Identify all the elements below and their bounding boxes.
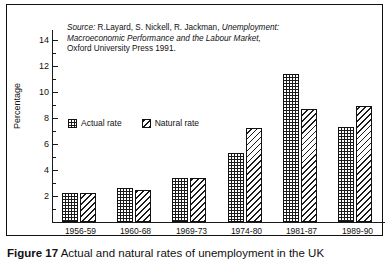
bar-natural-1960-68 — [135, 190, 151, 222]
bar-natural-1981-87 — [301, 109, 317, 222]
figure-caption-text: Actual and natural rates of unemployment… — [61, 247, 324, 259]
bar-actual-1981-87 — [283, 74, 299, 222]
figure-number: Figure 17 — [7, 247, 58, 259]
x-axis-label-1989-90: 1989-90 — [330, 226, 385, 236]
bar-natural-1974-80 — [246, 128, 262, 222]
chart-plot-area: Source: R.Layard, S. Nickell, R. Jackman… — [7, 5, 382, 235]
x-axis-label-1956-59: 1956-59 — [53, 226, 108, 236]
x-axis-label-1969-73: 1969-73 — [164, 226, 219, 236]
figure-frame: Source: R.Layard, S. Nickell, R. Jackman… — [6, 4, 383, 236]
bar-actual-1989-90 — [338, 127, 354, 222]
bar-actual-1956-59 — [62, 193, 78, 222]
x-axis-label-1960-68: 1960-68 — [108, 226, 163, 236]
bar-actual-1960-68 — [117, 188, 133, 222]
figure-caption: Figure 17 Actual and natural rates of un… — [7, 246, 383, 260]
bar-natural-1969-73 — [190, 178, 206, 222]
x-axis-label-1981-87: 1981-87 — [274, 226, 329, 236]
x-axis-label-1974-80: 1974-80 — [219, 226, 274, 236]
bar-natural-1956-59 — [80, 193, 96, 222]
bars-layer — [7, 5, 382, 235]
bar-natural-1989-90 — [356, 106, 372, 222]
bar-actual-1969-73 — [172, 178, 188, 222]
bar-actual-1974-80 — [228, 153, 244, 222]
